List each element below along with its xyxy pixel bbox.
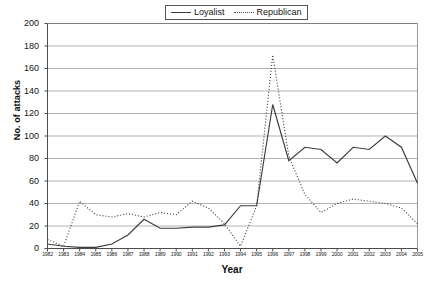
attacks-line-chart: No. of attacks 0204060801001201401601802…: [0, 0, 432, 285]
x-axis-title: Year: [47, 264, 417, 275]
legend-label-loyalist: Loyalist: [194, 8, 225, 17]
legend-entry-republican: Republican: [234, 8, 302, 17]
legend-entry-loyalist: Loyalist: [171, 8, 225, 17]
legend-line-dotted-icon: [234, 12, 254, 14]
series-line-republican: [48, 55, 418, 246]
chart-legend: Loyalist Republican: [165, 5, 308, 20]
legend-line-solid-icon: [171, 12, 191, 14]
legend-label-republican: Republican: [257, 8, 302, 17]
plot-area: [0, 0, 432, 285]
x-tick-label: 2005: [409, 251, 427, 257]
